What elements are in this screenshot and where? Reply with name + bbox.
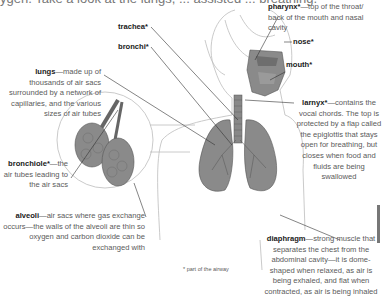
page-edge-marker [377, 205, 380, 243]
term-nose: nose* [293, 37, 314, 46]
term-bronchi: bronchi* [118, 42, 149, 51]
label-alveoli: alveoli—air sacs where gas exchange occu… [0, 211, 145, 253]
label-bronchi: bronchi* [118, 42, 149, 53]
term-lungs: lungs [35, 67, 55, 76]
term-mouth: mouth* [286, 60, 312, 69]
desc-lungs: —made up of thousands of air sacs surrou… [9, 67, 101, 118]
desc-diaphragm: —strong muscle that separates the chest … [264, 234, 377, 296]
label-lungs: lungs—made up of thousands of air sacs s… [8, 67, 101, 120]
term-diaphragm: diaphragm [267, 234, 306, 243]
desc-larnyx: —contains the vocal chords. The top is p… [297, 98, 381, 181]
label-mouth: mouth* [286, 60, 312, 71]
term-alveoli: alveoli [15, 211, 39, 220]
term-pharynx: pharynx* [268, 2, 301, 11]
label-bronchiole: bronchiole*—the air tubes leading to the… [0, 159, 68, 191]
term-trachea: trachea* [118, 22, 148, 31]
term-larnyx: larnyx* [302, 98, 327, 107]
footnote: * part of the airway [183, 264, 229, 275]
label-diaphragm: diaphragm—strong muscle that separates t… [262, 234, 380, 298]
term-bronchiole: bronchiole* [8, 159, 50, 168]
label-larnyx: larnyx*—contains the vocal chords. The t… [295, 98, 383, 183]
label-nose: nose* [293, 37, 314, 48]
label-pharynx: pharynx*—top of the throat/ back of the … [268, 2, 380, 34]
label-trachea: trachea* [118, 22, 148, 33]
